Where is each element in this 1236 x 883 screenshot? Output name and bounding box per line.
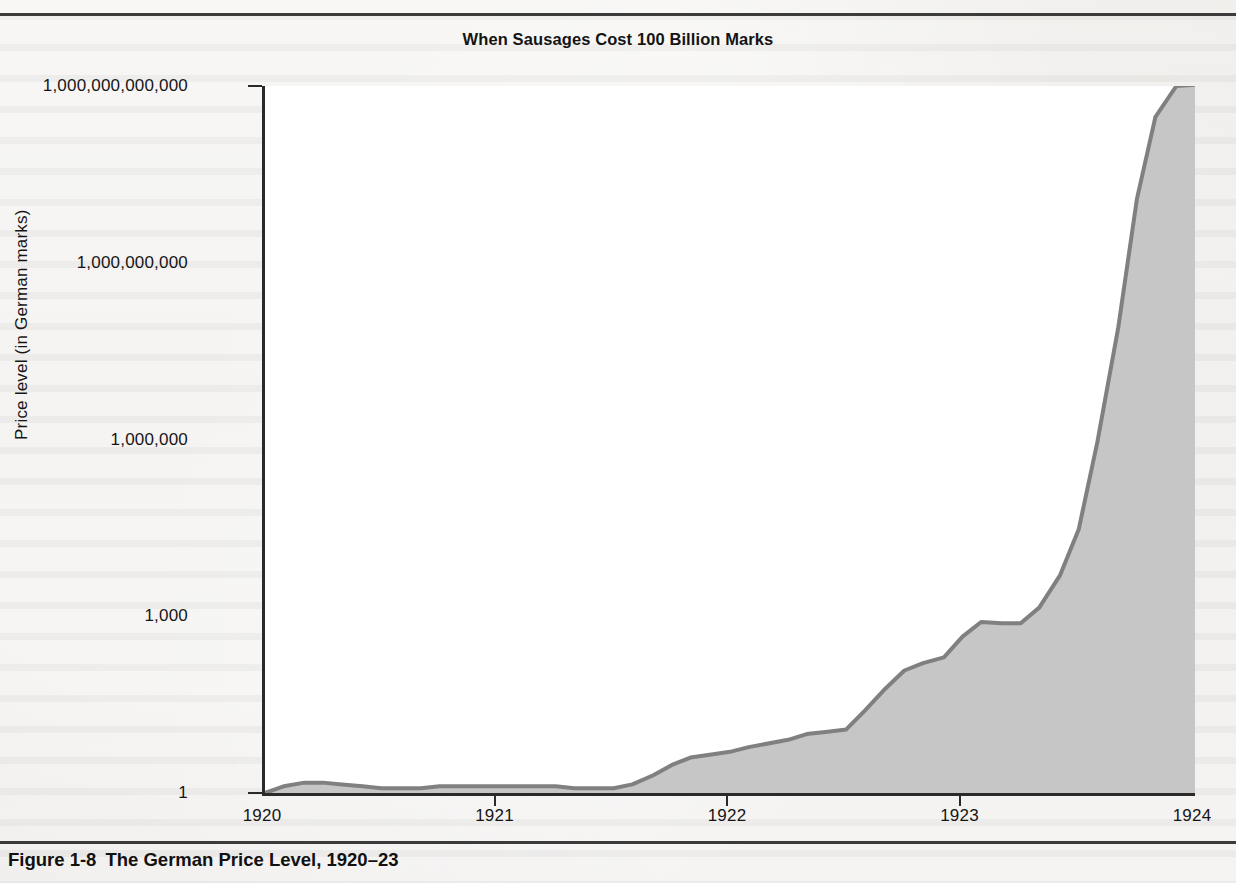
x-tick-label: 1920 — [243, 806, 282, 826]
caption-number: Figure 1-8 — [8, 849, 96, 870]
x-tick-label: 1921 — [475, 806, 514, 826]
caption-divider-rule — [0, 841, 1236, 844]
area-series-svg — [265, 86, 1195, 793]
y-tick-label: 1,000,000,000 — [77, 253, 188, 273]
x-tick-label: 1923 — [940, 806, 979, 826]
y-tick-label: 1 — [178, 783, 188, 803]
plot-area — [262, 86, 1195, 796]
y-tick-label: 1,000,000 — [111, 430, 188, 450]
x-tick-label: 1924 — [1173, 806, 1212, 826]
area-fill-path — [265, 86, 1195, 793]
caption-text: The German Price Level, 1920–23 — [105, 849, 398, 870]
x-tick-mark — [494, 793, 496, 806]
y-tick-label: 1,000,000,000,000 — [43, 76, 188, 96]
x-tick-mark — [959, 793, 961, 806]
y-axis-title: Price level (in German marks) — [12, 209, 32, 440]
x-tick-label: 1922 — [708, 806, 747, 826]
price-level-chart: Price level (in German marks) 11,0001,00… — [0, 0, 1236, 840]
y-tick-mark — [248, 792, 262, 794]
y-tick-mark — [248, 85, 262, 87]
figure-caption: Figure 1-8The German Price Level, 1920–2… — [8, 849, 399, 871]
y-tick-label: 1,000 — [144, 606, 188, 626]
x-tick-mark — [726, 793, 728, 806]
